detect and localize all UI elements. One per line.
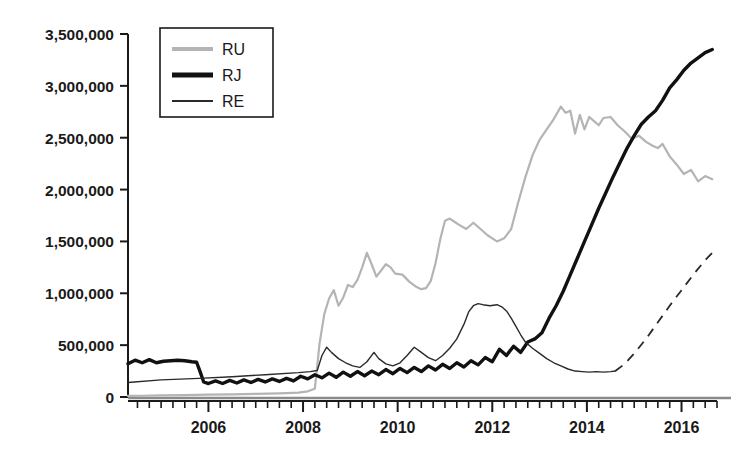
y-axis-tick-label: 0 [105, 389, 114, 406]
x-axis-tick-label: 2012 [474, 419, 510, 436]
series-line-re-dashed [615, 253, 712, 371]
legend-label-ru: RU [222, 41, 245, 58]
legend-label-rj: RJ [222, 67, 242, 84]
y-axis-tick-label: 1,500,000 [45, 233, 114, 250]
y-axis-tick-label: 2,500,000 [45, 130, 114, 147]
y-axis-tick-label: 3,500,000 [45, 26, 114, 43]
y-axis-tick-label: 3,000,000 [45, 78, 114, 95]
x-axis-tick-label: 2008 [285, 419, 321, 436]
series-re [128, 253, 712, 383]
x-axis-tick-label: 2016 [664, 419, 700, 436]
y-axis-tick-label: 1,000,000 [45, 285, 114, 302]
legend: RURJRE [160, 28, 273, 117]
chart-container: 0500,0001,000,0001,500,0002,000,0002,500… [0, 0, 748, 456]
line-chart: 0500,0001,000,0001,500,0002,000,0002,500… [0, 0, 748, 456]
legend-label-re: RE [222, 93, 244, 110]
y-axis-tick-label: 500,000 [58, 337, 114, 354]
x-axis-tick-label: 2014 [569, 419, 605, 436]
x-axis-tick-label: 2006 [191, 419, 227, 436]
y-axis-tick-label: 2,000,000 [45, 182, 114, 199]
x-axis-tick-label: 2010 [380, 419, 416, 436]
